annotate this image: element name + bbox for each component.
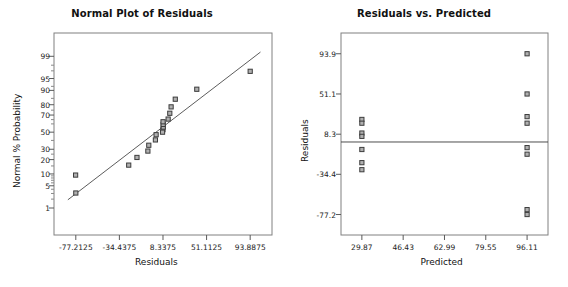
- y-tick-label-right-4: -77.2: [306, 210, 336, 219]
- y-tick-label-left-1: 5: [24, 181, 50, 190]
- y-tick-label-left-2: 10: [24, 169, 50, 178]
- y-tick-label-left-0: 1: [24, 204, 50, 213]
- data-point-marker: [74, 191, 78, 195]
- y-tick-label-right-1: 51.1: [306, 89, 336, 98]
- data-point-marker: [525, 92, 529, 96]
- data-point-marker: [166, 117, 170, 121]
- data-point-marker: [160, 130, 164, 134]
- data-point-marker: [360, 134, 364, 138]
- data-point-marker: [360, 168, 364, 172]
- x-tick-label-right-1: 46.43: [392, 243, 413, 252]
- data-point-marker: [195, 87, 199, 91]
- chart-panel-normal-plot: Normal Plot of Residuals Residuals Norma…: [0, 0, 290, 287]
- data-point-marker: [74, 173, 78, 177]
- x-tick-label-right-2: 62.99: [434, 243, 455, 252]
- x-axis-title-right: Predicted: [421, 257, 463, 267]
- data-point-marker: [248, 69, 252, 73]
- plot-frame: [341, 33, 548, 235]
- y-tick-label-right-2: 8.3: [306, 130, 336, 139]
- x-tick-label-left-2: 8.3375: [150, 243, 176, 252]
- chart-panel-residuals-vs-predicted: Residuals vs. Predicted Predicted Residu…: [290, 0, 568, 287]
- data-point-marker: [525, 121, 529, 125]
- x-axis-title-left: Residuals: [135, 257, 178, 267]
- figure-root: Normal Plot of Residuals Residuals Norma…: [0, 0, 568, 287]
- y-tick-label-left-10: 99: [24, 52, 50, 61]
- x-tick-label-left-4: 93.8875: [235, 243, 266, 252]
- y-tick-label-left-3: 20: [24, 155, 50, 164]
- data-point-marker: [154, 133, 158, 137]
- y-tick-label-left-5: 50: [24, 128, 50, 137]
- data-point-marker: [525, 115, 529, 119]
- data-point-marker: [153, 138, 157, 142]
- data-point-marker: [525, 152, 529, 156]
- data-point-marker: [525, 146, 529, 150]
- data-point-marker: [525, 52, 529, 56]
- data-point-marker: [525, 208, 529, 212]
- data-point-marker: [525, 212, 529, 216]
- data-point-marker: [360, 121, 364, 125]
- y-axis-title-right: Residuals: [300, 119, 310, 162]
- data-point-marker: [146, 149, 150, 153]
- x-tick-label-left-1: -34.4375: [103, 243, 137, 252]
- data-point-marker: [173, 97, 177, 101]
- data-point-marker: [360, 147, 364, 151]
- x-tick-label-left-3: 51.1125: [191, 243, 222, 252]
- data-point-marker: [127, 163, 131, 167]
- y-tick-label-right-3: -34.4: [306, 170, 336, 179]
- x-tick-label-left-0: -77.2125: [59, 243, 93, 252]
- y-tick-label-left-4: 30: [24, 145, 50, 154]
- data-point-marker: [135, 155, 139, 159]
- x-tick-label-right-0: 29.87: [351, 243, 372, 252]
- y-tick-label-right-0: 93.9: [306, 49, 336, 58]
- x-tick-label-right-4: 96.11: [516, 243, 537, 252]
- data-point-marker: [360, 161, 364, 165]
- x-tick-label-right-3: 79.55: [475, 243, 496, 252]
- data-point-marker: [168, 111, 172, 115]
- data-point-marker: [169, 105, 173, 109]
- y-tick-label-left-9: 95: [24, 74, 50, 83]
- data-point-marker: [161, 120, 165, 124]
- y-tick-label-left-7: 80: [24, 100, 50, 109]
- y-tick-label-left-6: 70: [24, 111, 50, 120]
- data-point-marker: [147, 143, 151, 147]
- y-axis-title-left: Normal % Probability: [12, 94, 22, 188]
- y-tick-label-left-8: 90: [24, 86, 50, 95]
